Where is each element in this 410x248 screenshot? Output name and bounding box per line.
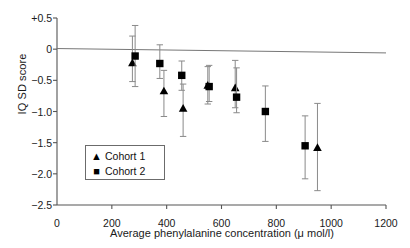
triangle-data-point (313, 143, 322, 151)
y-tick-label: −2.5 (18, 200, 52, 211)
x-axis-title: Average phenylalanine concentration (μ m… (57, 227, 387, 239)
legend-item-cohort-2: ■ Cohort 2 (91, 164, 160, 179)
triangle-marker-icon: ▲ (91, 151, 102, 162)
square-data-point (205, 83, 212, 90)
legend-label-cohort-2: Cohort 2 (105, 164, 145, 179)
triangle-data-point (160, 87, 169, 95)
y-tick-label: +0.5 (18, 13, 52, 24)
square-data-point (301, 142, 308, 149)
y-tick-label: −2.0 (18, 169, 52, 180)
square-data-point (262, 108, 269, 115)
y-tick-label: −1.5 (18, 138, 52, 149)
x-axis-tick-labels: 020040060080010001200 (0, 212, 410, 228)
square-data-point (156, 60, 163, 67)
chart-figure: +0.50−0.5−1.0−1.5−2.0−2.5 02004006008001… (0, 0, 410, 248)
y-axis-title: IQ SD score (16, 29, 28, 139)
triangle-data-point (179, 104, 188, 112)
square-data-point (233, 93, 240, 100)
chart-plot-area (0, 0, 410, 248)
legend-label-cohort-1: Cohort 1 (105, 149, 145, 164)
legend-item-cohort-1: ▲ Cohort 1 (91, 149, 160, 164)
square-data-point (178, 72, 185, 79)
triangle-data-point (231, 84, 240, 92)
square-data-point (131, 52, 138, 59)
square-marker-icon: ■ (91, 166, 102, 177)
chart-legend: ▲ Cohort 1 ■ Cohort 2 (85, 145, 165, 180)
regression-line (57, 49, 386, 53)
